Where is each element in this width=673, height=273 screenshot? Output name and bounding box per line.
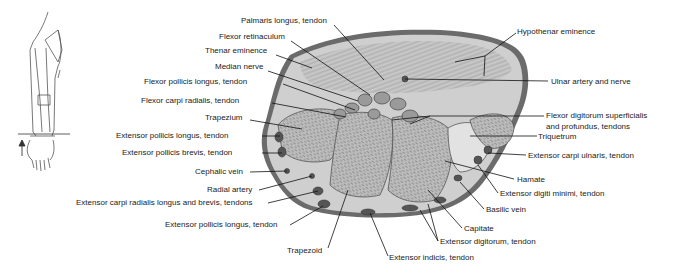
- label-flexor-carpi-radialis: Flexor carpi radialis, tendon: [141, 96, 239, 106]
- label-extensor-digitorum: Extensor digitorum, tendon: [440, 237, 536, 247]
- label-extensor-carpi-radialis: Extensor carpi radialis longus and brevi…: [76, 198, 253, 208]
- label-capitate: Capitate: [464, 224, 494, 234]
- label-hamate: Hamate: [517, 175, 545, 185]
- label-trapezium: Trapezium: [205, 113, 243, 123]
- label-median-nerve: Median nerve: [215, 62, 263, 72]
- label-extensor-indicis: Extensor indicis, tendon: [389, 253, 474, 263]
- label-cephalic-vein: Cephalic vein: [195, 167, 243, 177]
- label-trapezoid: Trapezoid: [287, 246, 322, 256]
- label-hypothenar-eminence: Hypothenar eminence: [517, 27, 595, 37]
- label-extensor-pollicis-longus-upper: Extensor pollicis longus, tendon: [116, 131, 229, 141]
- label-flexor-digitorum-line2: and profundus, tendons: [546, 122, 630, 132]
- label-extensor-carpi-ulnaris: Extensor carpi ulnaris, tendon: [528, 151, 634, 161]
- label-flexor-retinaculum: Flexor retinaculum: [219, 32, 285, 42]
- wrist-cross-section-figure: Palmaris longus, tendon Flexor retinacul…: [0, 0, 673, 273]
- label-flexor-pollicis-longus: Flexor pollicis longus, tendon: [144, 77, 247, 87]
- label-thenar-eminence: Thenar eminence: [205, 46, 267, 56]
- label-extensor-digiti-minimi: Extensor digiti minimi, tendon: [500, 189, 605, 199]
- label-basilic-vein: Basilic vein: [486, 205, 526, 215]
- label-palmaris-longus: Palmaris longus, tendon: [241, 16, 327, 26]
- label-extensor-pollicis-longus-lower: Extensor pollicis longus, tendon: [165, 220, 278, 230]
- label-ulnar-artery-nerve: Ulnar artery and nerve: [551, 77, 631, 87]
- label-radial-artery: Radial artery: [207, 185, 252, 195]
- label-extensor-pollicis-brevis: Extensor pollicis brevis, tendon: [122, 148, 232, 158]
- label-triquetrum: Triquetrum: [538, 132, 576, 142]
- label-flexor-digitorum-line1: Flexor digitorum superficialis: [546, 111, 647, 121]
